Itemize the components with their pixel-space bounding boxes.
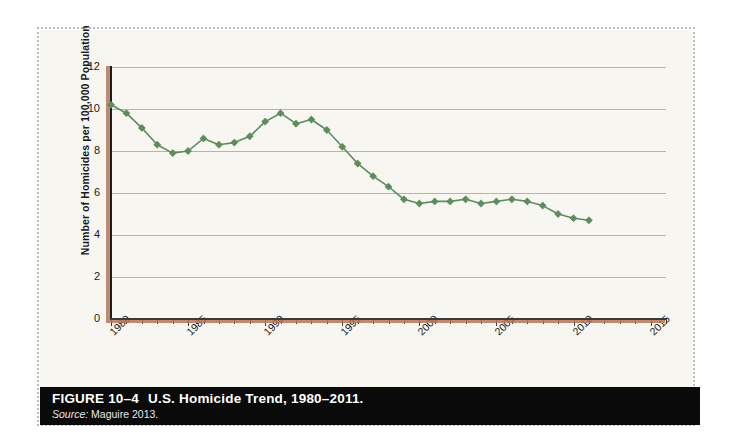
data-point-marker: [509, 196, 515, 202]
figure-caption-bar: FIGURE 10–4U.S. Homicide Trend, 1980–201…: [40, 387, 700, 425]
data-point-marker: [108, 102, 114, 108]
data-point-marker: [231, 140, 237, 146]
data-point-marker: [170, 150, 176, 156]
data-point-marker: [493, 198, 499, 204]
source-label: Source:: [52, 408, 88, 420]
series-line: [111, 105, 589, 221]
chart-panel: Number of Homicides per 100,000 Populati…: [40, 30, 692, 387]
figure-page: Number of Homicides per 100,000 Populati…: [0, 0, 735, 444]
figure-title-text: U.S. Homicide Trend, 1980–2011.: [148, 391, 364, 406]
source-text: Maguire 2013.: [91, 408, 158, 420]
series-markers: [108, 102, 592, 224]
plot-area: Number of Homicides per 100,000 Populati…: [40, 30, 692, 387]
data-point-marker: [586, 217, 592, 223]
data-point-marker: [570, 215, 576, 221]
data-point-marker: [462, 196, 468, 202]
data-point-marker: [478, 200, 484, 206]
data-point-marker: [555, 211, 561, 217]
data-point-marker: [432, 198, 438, 204]
caption-source-line: Source: Maguire 2013.: [52, 408, 158, 420]
data-point-marker: [540, 203, 546, 209]
caption-title-line: FIGURE 10–4U.S. Homicide Trend, 1980–201…: [52, 391, 364, 406]
data-point-marker: [447, 198, 453, 204]
data-point-marker: [524, 198, 530, 204]
data-point-marker: [216, 142, 222, 148]
homicide-trend-line-series: [40, 30, 692, 387]
figure-number-label: FIGURE 10–4: [52, 391, 139, 406]
data-point-marker: [416, 200, 422, 206]
